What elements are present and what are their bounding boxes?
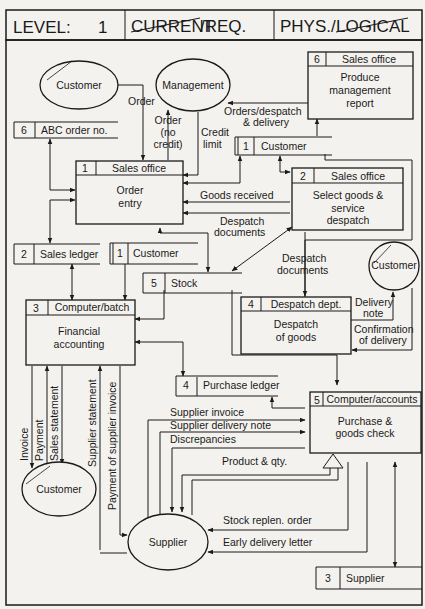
data-store-1-customer-upper[interactable]: 1 Customer (235, 137, 332, 155)
data-store-4-purchase-ledger[interactable]: 4 Purchase ledger (176, 376, 280, 396)
flow-label-orders-despatch: & delivery (243, 116, 290, 128)
store-name: Purchase ledger (203, 379, 280, 391)
flow-label-goods-received: Goods received (200, 189, 274, 201)
store-id: 6 (21, 124, 27, 136)
process-2-select-goods[interactable]: 2 Sales office Select goods & service de… (292, 168, 403, 230)
store-id: 5 (151, 277, 157, 289)
flow-label-supplier-statement: Supplier statement (86, 379, 98, 467)
data-store-3-supplier[interactable]: 3 Supplier (316, 567, 422, 589)
store-id: 4 (183, 379, 189, 391)
data-store-6-abc-order-no[interactable]: 6 ABC order no. (14, 122, 118, 138)
flow-label-order-no-credit: credit) (153, 138, 182, 150)
flow-label-delivery-note: note (363, 307, 384, 319)
store-name: Sales ledger (40, 248, 99, 260)
process-location: Sales office (112, 162, 166, 174)
process-location: Computer/batch (55, 301, 130, 313)
process-name: despatch (327, 214, 370, 226)
data-store-5-stock[interactable]: 5 Stock (143, 273, 242, 293)
flow-label-order: Order (128, 95, 155, 107)
entity-label: Supplier (149, 536, 188, 548)
flow-label-order-no-credit: Order (155, 114, 182, 126)
flow-label-despatch-documents: documents (214, 226, 265, 238)
flow-label-despatch-documents-2: Despatch (282, 252, 327, 264)
store-name: Supplier (346, 572, 385, 584)
process-name: management (329, 84, 390, 96)
process-1-order-entry[interactable]: 1 Sales office Order entry (76, 161, 183, 224)
flow-label-payment: Payment (33, 419, 45, 461)
junction-triangle-icon (323, 454, 343, 468)
entity-label: Customer (371, 259, 417, 271)
process-name: report (346, 97, 374, 109)
process-location: Sales office (342, 53, 396, 65)
process-id: 3 (33, 302, 39, 314)
data-store-1-customer-lower[interactable]: 1 Customer (110, 243, 198, 264)
process-name: Order (117, 184, 144, 196)
store-name: ABC order no. (41, 124, 108, 136)
external-entity-customer-right[interactable]: Customer (369, 242, 419, 290)
process-6-produce-management-report[interactable]: 6 Sales office Produce management report (308, 52, 413, 119)
external-entity-customer-bottom[interactable]: Customer (22, 462, 96, 516)
process-name: accounting (54, 338, 105, 350)
process-id: 5 (314, 394, 320, 406)
flow-label-credit-limit: limit (203, 138, 222, 150)
external-entity-supplier[interactable]: Supplier (128, 514, 208, 570)
flow-label-sales-statement: Sales statement (48, 386, 60, 461)
flow-label-stock-replen: Stock replen. order (223, 514, 312, 526)
process-name: Financial (58, 325, 100, 337)
store-id: 2 (21, 248, 27, 260)
entity-label: Management (162, 79, 223, 91)
level-label: LEVEL: (13, 18, 71, 37)
store-id: 1 (243, 140, 249, 152)
flow-label-invoice: Invoice (18, 428, 30, 461)
process-3-financial-accounting[interactable]: 3 Computer/batch Financial accounting (26, 300, 135, 365)
data-flow-diagram: LEVEL: 1 CURRENT /REQ. PHYS./ LOGICAL (0, 0, 425, 609)
process-name: service (331, 202, 364, 214)
flow-label-supplier-delivery-note: Supplier delivery note (170, 419, 271, 431)
flow-label-payment-supplier-invoice: Payment of supplier invoice (106, 381, 118, 510)
process-name: entry (118, 197, 142, 209)
entity-label: Customer (56, 79, 102, 91)
req-label: /REQ. (200, 17, 246, 36)
flow-label-credit-limit: Credit (201, 126, 229, 138)
level-value: 1 (98, 18, 107, 37)
phys-label: PHYS./ (280, 17, 336, 36)
entity-label: Customer (36, 483, 82, 495)
flow-label-order-no-credit: (no (160, 126, 175, 138)
flow-label-confirmation: of delivery (359, 334, 408, 346)
process-name: Purchase & (338, 415, 392, 427)
flow-label-early-delivery: Early delivery letter (223, 536, 313, 548)
header-bar: LEVEL: 1 CURRENT /REQ. PHYS./ LOGICAL (6, 10, 422, 40)
process-location: Computer/accounts (326, 393, 417, 405)
process-id: 1 (82, 162, 88, 174)
store-name: Stock (171, 277, 198, 289)
process-name: Select goods & (313, 189, 384, 201)
process-name: of goods (276, 331, 316, 343)
process-4-despatch-of-goods[interactable]: 4 Despatch dept. Despatch of goods (241, 297, 351, 354)
process-location: Despatch dept. (271, 298, 342, 310)
process-location: Sales office (331, 170, 385, 182)
flow-label-discrepancies: Discrepancies (170, 433, 236, 445)
flow-label-supplier-invoice: Supplier invoice (170, 406, 244, 418)
process-5-purchase-goods-check[interactable]: 5 Computer/accounts Purchase & goods che… (310, 392, 421, 453)
external-entity-management[interactable]: Management (156, 59, 230, 111)
process-id: 4 (248, 298, 254, 310)
process-id: 2 (300, 170, 306, 182)
flow-label-despatch-documents-2: documents (277, 264, 328, 276)
process-name: Produce (340, 71, 379, 83)
process-name: goods check (336, 427, 396, 439)
process-name: Despatch (274, 318, 319, 330)
data-store-2-sales-ledger[interactable]: 2 Sales ledger (14, 244, 100, 264)
store-name: Customer (261, 140, 307, 152)
flow-label-product-qty: Product & qty. (222, 455, 287, 467)
external-entity-customer-top[interactable]: Customer (40, 61, 118, 109)
store-name: Customer (133, 247, 179, 259)
process-id: 6 (314, 53, 320, 65)
store-id: 3 (325, 572, 331, 584)
store-id: 1 (117, 247, 123, 259)
